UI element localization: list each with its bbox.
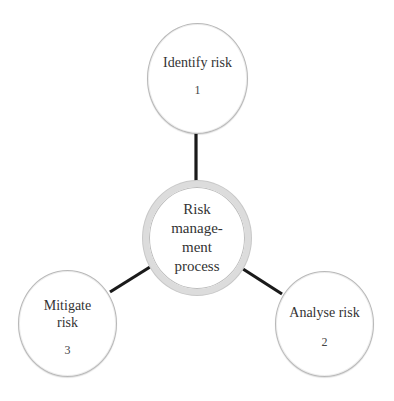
center-label-line-2: manage-	[171, 219, 223, 238]
center-label-line-3: ment	[182, 238, 212, 257]
node-mitigate-risk: Mitigate risk 3	[18, 270, 117, 377]
node-mitigate-risk-label-line-1: Mitigate	[44, 297, 91, 314]
node-analyse-risk-number: 2	[322, 335, 328, 350]
node-identify-risk-number: 1	[195, 83, 201, 98]
edge-center-to-analyse	[243, 269, 282, 294]
node-mitigate-risk-number: 3	[65, 343, 71, 358]
risk-management-diagram: Identify risk 1 Risk manage- ment proces…	[0, 0, 394, 401]
node-analyse-risk: Analyse risk 2	[275, 271, 374, 377]
node-mitigate-risk-label-line-2: risk	[57, 314, 78, 331]
node-identify-risk-label: Identify risk	[163, 54, 232, 71]
center-label-line-1: Risk	[183, 200, 211, 219]
edge-center-to-mitigate	[110, 267, 150, 292]
node-identify-risk: Identify risk 1	[147, 23, 248, 134]
node-center-risk-management-process: Risk manage- ment process	[143, 181, 251, 295]
node-analyse-risk-label: Analyse risk	[289, 304, 359, 321]
center-label-line-4: process	[175, 257, 220, 276]
